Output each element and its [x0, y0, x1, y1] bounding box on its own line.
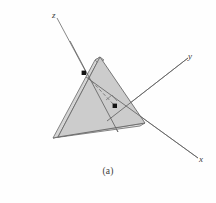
figure-container: z y x (a): [0, 0, 216, 203]
axis-label-x: x: [199, 155, 203, 164]
plate-front-face: [58, 57, 145, 137]
upper-left-point-marker: [82, 71, 86, 75]
triangular-plate: [53, 57, 145, 138]
interior-point-marker: [113, 104, 117, 108]
axis-lines-back: [57, 18, 198, 158]
axis-label-z: z: [52, 11, 56, 20]
figure-caption: (a): [0, 166, 216, 176]
axis-label-y: y: [188, 52, 192, 61]
